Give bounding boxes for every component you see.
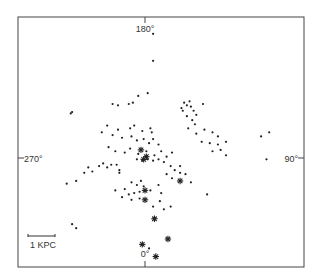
- data-point-dot: [152, 160, 154, 162]
- data-point-dot: [183, 102, 185, 104]
- data-point-dot: [152, 60, 154, 62]
- data-point-dot: [151, 131, 153, 133]
- data-point-dot: [148, 142, 150, 144]
- data-point-dot: [171, 177, 173, 179]
- data-point-dot: [83, 172, 85, 174]
- data-point-dot: [116, 164, 118, 166]
- data-point-dot: [129, 127, 131, 129]
- data-point-dot: [121, 196, 123, 198]
- data-point-dot: [225, 154, 227, 156]
- data-point-dot: [194, 123, 196, 125]
- data-point-dot: [124, 188, 126, 190]
- data-point-dot: [160, 192, 162, 194]
- data-point-dot: [102, 162, 104, 164]
- data-point-dot: [166, 173, 168, 175]
- data-point-dot: [149, 189, 151, 191]
- data-point-dot: [136, 184, 138, 186]
- data-point-dot: [179, 172, 181, 174]
- data-point-dot: [75, 227, 77, 229]
- data-point-dot: [133, 125, 135, 127]
- data-point-dot: [66, 183, 68, 185]
- data-point-dot: [129, 147, 131, 149]
- data-point-dot: [112, 103, 114, 105]
- data-point-dot: [268, 131, 270, 133]
- data-point-dot: [149, 127, 151, 129]
- data-point-dot: [152, 33, 154, 35]
- data-point-dot: [106, 125, 108, 127]
- data-point-dot: [180, 107, 182, 109]
- data-point-asterisk: [140, 156, 146, 162]
- data-point-dot: [201, 141, 203, 143]
- data-point-dot: [107, 146, 109, 148]
- data-point-dot: [191, 119, 193, 121]
- data-point-dot: [211, 131, 213, 133]
- data-point-asterisk: [142, 197, 148, 203]
- data-point-dot: [141, 130, 143, 132]
- direction-labels: 180° 0° 270° 90°: [24, 24, 298, 259]
- data-point-dot: [118, 172, 120, 174]
- data-point-dot: [128, 193, 130, 195]
- data-point-dot: [157, 143, 159, 145]
- data-point-dot: [137, 153, 139, 155]
- data-point-dot: [217, 135, 219, 137]
- data-point-asterisk: [165, 236, 171, 242]
- data-point-dot: [118, 169, 120, 171]
- data-point-dot: [163, 208, 165, 210]
- data-point-dot: [187, 127, 189, 129]
- data-point-dot: [121, 137, 123, 139]
- data-point-dot: [106, 166, 108, 168]
- data-point-dot: [159, 200, 161, 202]
- data-point-dot: [139, 197, 141, 199]
- data-point-dot: [112, 134, 114, 136]
- data-point-dot: [184, 173, 186, 175]
- data-point-asterisk: [177, 178, 183, 184]
- data-point-dot: [193, 110, 195, 112]
- data-point-dot: [157, 184, 159, 186]
- data-point-dot: [186, 115, 188, 117]
- data-point-dot: [211, 150, 213, 152]
- data-point-dot: [203, 129, 205, 131]
- data-point-dot: [152, 138, 154, 140]
- data-point-dot: [171, 152, 173, 154]
- data-point-dot: [117, 129, 119, 131]
- data-point-dot: [260, 135, 262, 137]
- data-point-dot: [71, 223, 73, 225]
- data-point-dot: [195, 114, 197, 116]
- plot-frame: [18, 17, 304, 267]
- data-point-dot: [148, 247, 150, 249]
- data-point-dot: [137, 95, 139, 97]
- data-point-dot: [152, 206, 154, 208]
- data-point-dot: [220, 149, 222, 151]
- data-point-dot: [265, 158, 267, 160]
- data-point-dot: [143, 185, 145, 187]
- data-point-dot: [157, 158, 159, 160]
- data-point-dot: [163, 161, 165, 163]
- data-point-asterisk: [139, 241, 145, 247]
- data-point-dot: [202, 103, 204, 105]
- data-point-dot: [136, 158, 138, 160]
- data-point-dot: [139, 191, 141, 193]
- data-point-asterisk: [138, 147, 144, 153]
- data-points: [66, 33, 271, 260]
- data-point-dot: [130, 199, 132, 201]
- data-point-dot: [140, 180, 142, 182]
- data-point-dot: [133, 192, 135, 194]
- data-point-dot: [170, 165, 172, 167]
- data-point-dot: [170, 206, 172, 208]
- data-point-dot: [70, 112, 72, 114]
- scale-bar-label: 1 KPC: [30, 240, 57, 250]
- label-270: 270°: [24, 154, 43, 164]
- data-point-dot: [132, 102, 134, 104]
- data-point-dot: [130, 181, 132, 183]
- data-point-dot: [136, 139, 138, 141]
- data-point-dot: [195, 133, 197, 135]
- label-90: 90°: [284, 154, 298, 164]
- data-point-dot: [166, 156, 168, 158]
- data-point-dot: [114, 150, 116, 152]
- data-point-dot: [98, 165, 100, 167]
- data-point-dot: [153, 154, 155, 156]
- data-point-dot: [182, 110, 184, 112]
- data-point-dot: [186, 104, 188, 106]
- data-point-dot: [114, 189, 116, 191]
- data-point-dot: [179, 165, 181, 167]
